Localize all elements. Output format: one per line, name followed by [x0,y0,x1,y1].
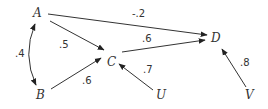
edge-label-a-d: -.2 [132,8,145,19]
node-b: B [35,88,45,102]
edge-v-d [222,49,246,87]
edge-label-b-c: .6 [82,75,92,86]
edge-label-a-c: .5 [59,39,69,50]
node-d: D [210,31,221,45]
diagram-canvas: A B C D U V -.2 .5 .6 .6 .7 .8 .4 [0,0,268,109]
path-diagram: A B C D U V -.2 .5 .6 .6 .7 .8 .4 [0,0,268,109]
edge-label-a-b: .4 [15,48,25,59]
edge-label-c-d: .6 [142,33,152,44]
edge-c-d [122,40,205,52]
edge-label-v-d: .8 [240,57,250,68]
node-v: V [245,88,255,102]
node-u: U [156,88,167,102]
edge-b-c [51,58,101,89]
edge-a-d [48,14,207,35]
edge-a-b-bidirected [29,24,36,85]
node-a: A [32,6,42,20]
node-c: C [107,55,116,69]
edge-label-u-c: .7 [143,64,153,75]
